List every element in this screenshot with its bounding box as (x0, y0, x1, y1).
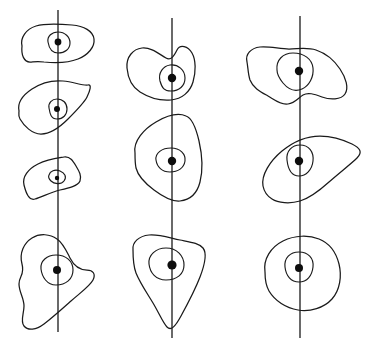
blob-left-2 (19, 81, 91, 134)
blob-left-3-core-dot (55, 176, 59, 180)
blob-mid-2-core-dot (168, 157, 176, 165)
blob-left-2-core-dot (54, 106, 60, 112)
blob-left-4 (19, 235, 94, 329)
blob-right-2-outer-contour (263, 136, 360, 203)
blob-mid-2-outer-contour (135, 115, 202, 201)
left-column-group (19, 10, 95, 332)
contour-figure-canvas: Hand-drawn nested contour figures along … (0, 0, 384, 351)
blob-mid-1-outer-contour (127, 46, 195, 100)
blob-left-3-outer-contour (24, 157, 81, 199)
blob-mid-3-core-dot (167, 260, 176, 269)
blob-right-3-outer-contour (265, 236, 341, 310)
blob-mid-1-core-dot (168, 74, 176, 82)
blob-left-4-core-dot (53, 266, 61, 274)
blob-right-3 (265, 236, 341, 310)
blob-mid-1 (127, 46, 195, 100)
blob-left-1-core-dot (55, 39, 62, 46)
blob-mid-2 (135, 115, 202, 201)
blob-mid-3 (133, 235, 205, 329)
blob-right-1-core-dot (295, 67, 303, 75)
blob-right-1-outer-contour (247, 47, 347, 104)
blob-left-4-outer-contour (19, 235, 94, 329)
right-column-group (247, 16, 361, 338)
blob-right-2 (263, 136, 360, 203)
blob-right-2-core-dot (295, 157, 303, 165)
middle-column-group (127, 18, 205, 338)
blob-mid-3-inner-contour (149, 248, 184, 280)
blob-left-2-outer-contour (19, 81, 91, 134)
blob-mid-3-outer-contour (133, 235, 205, 329)
contour-figure-svg: Hand-drawn nested contour figures along … (0, 0, 384, 351)
blob-left-3 (24, 157, 81, 199)
blob-right-1 (247, 47, 347, 104)
blob-right-3-core-dot (295, 264, 303, 272)
